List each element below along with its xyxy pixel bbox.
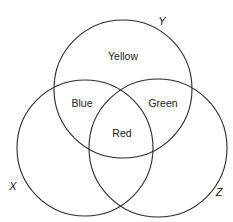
set-label-x: X xyxy=(8,180,17,192)
region-label-blue: Blue xyxy=(71,97,92,109)
venn-diagram: Yellow Blue Green Red Y X Z xyxy=(0,0,233,222)
region-label-yellow: Yellow xyxy=(108,50,138,62)
set-label-z: Z xyxy=(215,186,224,198)
set-label-y: Y xyxy=(158,15,166,27)
region-label-red: Red xyxy=(112,127,131,139)
region-label-green: Green xyxy=(148,97,177,109)
